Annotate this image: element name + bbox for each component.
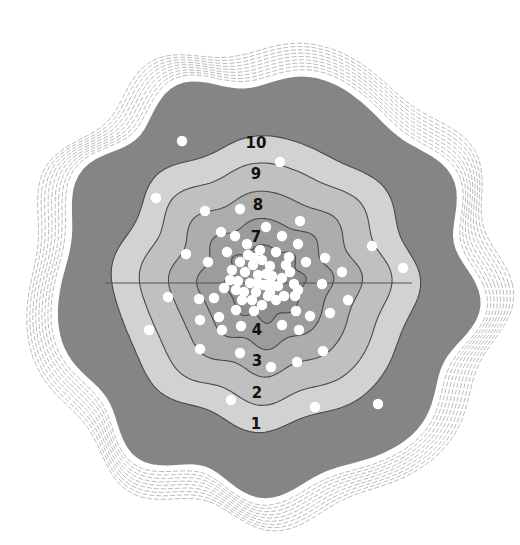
data-point <box>203 257 213 267</box>
data-point <box>261 269 271 279</box>
zone-label: 1 <box>251 415 261 433</box>
data-point <box>257 300 267 310</box>
zone-label: 3 <box>252 352 262 370</box>
data-point <box>181 249 191 259</box>
data-point <box>266 362 276 372</box>
data-point <box>235 348 245 358</box>
data-point <box>235 204 245 214</box>
data-point <box>214 312 224 322</box>
data-point <box>398 263 408 273</box>
data-point <box>144 325 154 335</box>
data-point <box>216 227 226 237</box>
data-point <box>277 231 287 241</box>
data-point <box>237 295 247 305</box>
zone-label: 2 <box>252 384 262 402</box>
data-point <box>222 247 232 257</box>
data-point <box>293 239 303 249</box>
data-point <box>247 295 257 305</box>
data-point <box>337 267 347 277</box>
data-point <box>253 278 263 288</box>
data-point <box>194 294 204 304</box>
zone-label: 8 <box>253 196 263 214</box>
zone-label: 10 <box>246 134 267 152</box>
data-point <box>295 216 305 226</box>
data-point <box>195 344 205 354</box>
data-point <box>301 257 311 267</box>
data-point <box>305 311 315 321</box>
data-point <box>217 325 227 335</box>
data-point <box>227 265 237 275</box>
data-point <box>231 285 241 295</box>
data-point <box>292 357 302 367</box>
data-point <box>231 305 241 315</box>
data-point <box>291 306 301 316</box>
data-point <box>219 283 229 293</box>
data-point <box>249 253 259 263</box>
diagram-canvas: 109874321 <box>0 0 520 545</box>
data-point <box>177 136 187 146</box>
data-point <box>195 315 205 325</box>
data-point <box>317 279 327 289</box>
data-point <box>277 320 287 330</box>
data-point <box>373 399 383 409</box>
data-point <box>367 241 377 251</box>
data-point <box>281 260 291 270</box>
data-point <box>261 222 271 232</box>
data-point <box>310 402 320 412</box>
data-point <box>163 292 173 302</box>
data-point <box>271 247 281 257</box>
data-point <box>240 267 250 277</box>
zone-label: 4 <box>252 321 262 339</box>
data-point <box>325 308 335 318</box>
data-point <box>200 206 210 216</box>
data-point <box>235 257 245 267</box>
data-point <box>226 395 236 405</box>
data-point <box>209 293 219 303</box>
data-point <box>293 285 303 295</box>
data-point <box>318 346 328 356</box>
zone-label: 7 <box>251 228 261 246</box>
data-point <box>320 253 330 263</box>
data-point <box>294 325 304 335</box>
data-point <box>265 278 275 288</box>
data-point <box>151 193 161 203</box>
data-point <box>279 291 289 301</box>
target-diagram: 109874321 <box>0 0 520 545</box>
zone-label: 9 <box>251 165 261 183</box>
data-point <box>275 157 285 167</box>
data-point <box>236 321 246 331</box>
data-point <box>343 295 353 305</box>
data-point <box>230 231 240 241</box>
